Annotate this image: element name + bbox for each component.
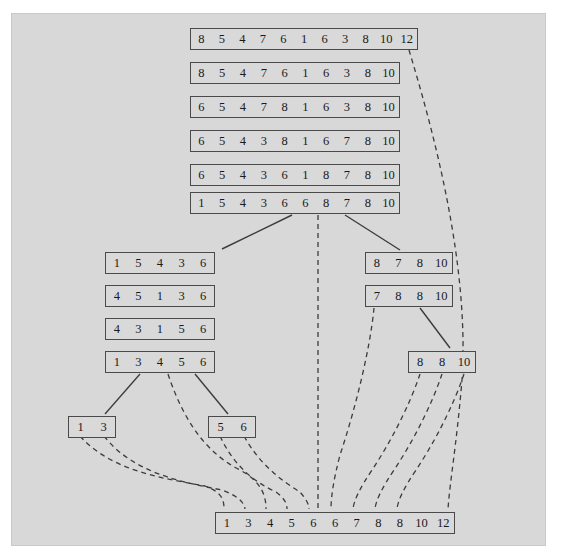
array-cell: 7	[253, 97, 274, 117]
array-cell: 6	[273, 29, 294, 49]
row-2: 85476163810	[190, 62, 400, 84]
array-cell: 5	[128, 286, 150, 306]
array-cell: 7	[253, 63, 274, 83]
array-cell: 3	[171, 286, 193, 306]
array-cell: 3	[337, 63, 358, 83]
array-cell: 7	[346, 513, 368, 533]
array-cell: 6	[314, 29, 335, 49]
array-cell: 1	[106, 253, 128, 273]
result-row: 1345667881012	[215, 512, 455, 534]
array-cell: 5	[281, 513, 303, 533]
array-cell: 3	[128, 319, 150, 339]
array-cell: 8	[389, 513, 411, 533]
figure-frame	[11, 13, 546, 546]
array-cell: 3	[337, 97, 358, 117]
left-row-2: 45136	[105, 285, 215, 307]
array-cell: 1	[106, 352, 128, 372]
array-cell: 8	[274, 97, 295, 117]
array-cell: 8	[191, 29, 212, 49]
array-cell: 6	[274, 193, 295, 213]
array-cell: 3	[253, 193, 274, 213]
array-cell: 8	[316, 165, 337, 185]
array-cell: 7	[388, 253, 410, 273]
array-cell: 8	[367, 513, 389, 533]
array-cell: 6	[274, 63, 295, 83]
array-cell: 12	[432, 513, 454, 533]
array-cell: 8	[409, 286, 431, 306]
right-row-3: 8810	[408, 351, 476, 373]
array-cell: 8	[355, 29, 376, 49]
array-cell: 4	[232, 29, 253, 49]
array-cell: 3	[335, 29, 356, 49]
array-cell: 10	[431, 253, 453, 273]
array-cell: 5	[209, 417, 232, 437]
array-cell: 10	[378, 131, 399, 151]
array-cell: 6	[191, 97, 212, 117]
right-row-1: 87810	[365, 252, 453, 274]
array-cell: 6	[191, 165, 212, 185]
array-cell: 10	[378, 63, 399, 83]
array-cell: 3	[253, 131, 274, 151]
array-cell: 1	[149, 319, 171, 339]
array-cell: 4	[149, 253, 171, 273]
array-cell: 8	[366, 253, 388, 273]
array-cell: 3	[253, 165, 274, 185]
array-cell: 10	[376, 29, 397, 49]
array-cell: 4	[233, 131, 254, 151]
array-cell: 8	[431, 352, 453, 372]
array-cell: 1	[216, 513, 238, 533]
figure-stage: 8547616381012854761638106547816381065438…	[0, 0, 561, 559]
row-5: 65436187810	[190, 164, 400, 186]
left-row-4: 13456	[105, 351, 215, 373]
array-cell: 6	[274, 165, 295, 185]
array-cell: 7	[337, 165, 358, 185]
array-cell: 1	[295, 97, 316, 117]
row-3: 65478163810	[190, 96, 400, 118]
array-cell: 1	[191, 193, 212, 213]
array-cell: 1	[69, 417, 92, 437]
array-cell: 4	[233, 165, 254, 185]
array-cell: 5	[128, 253, 150, 273]
array-cell: 7	[337, 193, 358, 213]
array-cell: 8	[357, 165, 378, 185]
array-cell: 6	[232, 417, 255, 437]
leaf-right: 56	[208, 416, 256, 438]
array-cell: 6	[303, 513, 325, 533]
left-row-3: 43156	[105, 318, 215, 340]
array-cell: 1	[295, 131, 316, 151]
row-4: 65438167810	[190, 130, 400, 152]
array-cell: 3	[128, 352, 150, 372]
array-cell: 6	[316, 63, 337, 83]
array-cell: 5	[212, 193, 233, 213]
row-1: 8547616381012	[190, 28, 418, 50]
array-cell: 1	[295, 165, 316, 185]
array-cell: 10	[411, 513, 433, 533]
array-cell: 4	[106, 286, 128, 306]
array-cell: 7	[253, 29, 274, 49]
array-cell: 8	[274, 131, 295, 151]
array-cell: 8	[357, 63, 378, 83]
array-cell: 4	[233, 63, 254, 83]
array-cell: 3	[238, 513, 260, 533]
array-cell: 8	[191, 63, 212, 83]
array-cell: 1	[295, 63, 316, 83]
array-cell: 4	[149, 352, 171, 372]
array-cell: 8	[409, 253, 431, 273]
array-cell: 8	[357, 193, 378, 213]
array-cell: 8	[409, 352, 431, 372]
array-cell: 5	[212, 131, 233, 151]
array-cell: 5	[212, 29, 233, 49]
array-cell: 10	[378, 193, 399, 213]
array-cell: 6	[316, 97, 337, 117]
array-cell: 6	[324, 513, 346, 533]
array-cell: 6	[192, 319, 214, 339]
array-cell: 10	[453, 352, 475, 372]
array-cell: 4	[233, 193, 254, 213]
array-cell: 1	[149, 286, 171, 306]
array-cell: 10	[378, 97, 399, 117]
array-cell: 5	[171, 319, 193, 339]
array-cell: 4	[233, 97, 254, 117]
array-cell: 12	[396, 29, 417, 49]
array-cell: 5	[212, 97, 233, 117]
array-cell: 10	[431, 286, 453, 306]
